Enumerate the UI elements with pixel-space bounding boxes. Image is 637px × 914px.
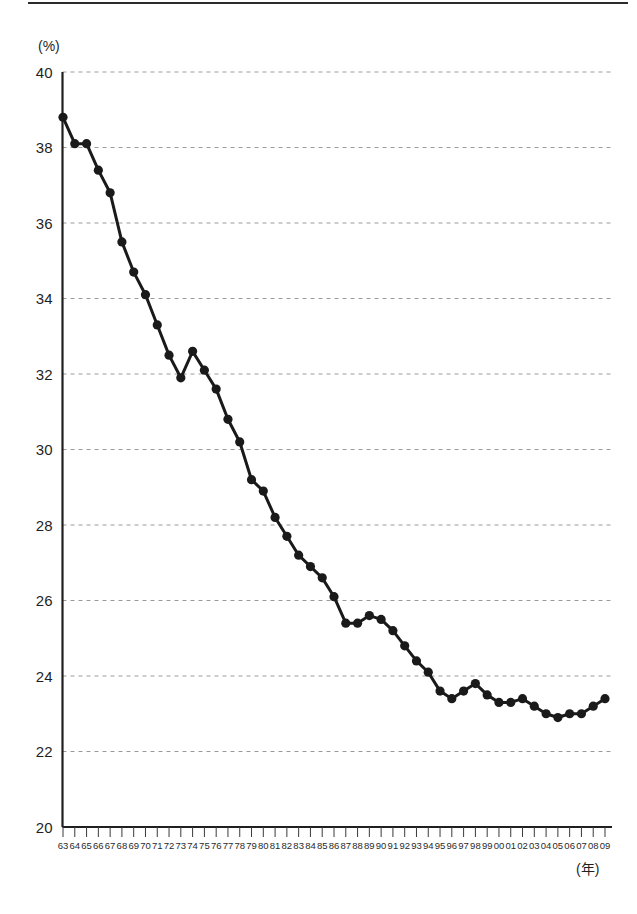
data-point-marker — [212, 385, 221, 394]
data-point-marker — [329, 592, 338, 601]
x-axis-tick-label: 98 — [470, 840, 481, 851]
x-axis-tick-label: 70 — [140, 840, 151, 851]
data-point-marker — [424, 668, 433, 677]
y-axis-tick-label: 22 — [36, 743, 53, 760]
y-axis-tick-label: 36 — [36, 215, 53, 232]
chart-plot-svg: 4038363432302826242220 63646566676869707… — [0, 0, 637, 914]
data-point-marker — [58, 113, 67, 122]
data-point-marker — [518, 694, 527, 703]
data-point-marker — [270, 513, 279, 522]
y-axis-tick-label: 30 — [36, 441, 53, 458]
x-axis-tick-label: 81 — [270, 840, 281, 851]
data-series-group — [58, 113, 609, 722]
x-axis-tick-label: 97 — [458, 840, 469, 851]
data-point-marker — [153, 320, 162, 329]
x-axis-tick-label: 88 — [352, 840, 363, 851]
x-axis-unit-label: (年) — [576, 858, 599, 878]
x-axis-tick-label: 66 — [93, 840, 104, 851]
x-axis-tick-label: 02 — [517, 840, 528, 851]
y-axis-group: 4038363432302826242220 — [36, 64, 63, 836]
x-axis-tick-label: 78 — [234, 840, 245, 851]
data-point-marker — [200, 366, 209, 375]
x-axis-tick-label: 80 — [258, 840, 269, 851]
data-point-marker — [282, 532, 291, 541]
y-axis-tick-label: 26 — [36, 592, 53, 609]
data-point-marker — [188, 347, 197, 356]
x-axis-tick-label: 89 — [364, 840, 375, 851]
x-axis-tick-label: 99 — [482, 840, 493, 851]
data-point-marker — [459, 687, 468, 696]
x-axis-tick-label: 06 — [564, 840, 575, 851]
y-axis-tick-label: 38 — [36, 139, 53, 156]
x-axis-tick-label: 82 — [282, 840, 293, 851]
x-axis-group: 6364656667686970717273747576777879808182… — [58, 827, 612, 851]
x-axis-tick-label: 05 — [553, 840, 564, 851]
x-axis-tick-label: 65 — [81, 840, 92, 851]
x-axis-tick-label: 63 — [58, 840, 69, 851]
data-point-marker — [235, 437, 244, 446]
x-axis-tick-label: 90 — [376, 840, 387, 851]
data-point-marker — [341, 619, 350, 628]
x-axis-tick-label: 94 — [423, 840, 434, 851]
x-axis-tick-label: 00 — [494, 840, 505, 851]
data-point-marker — [82, 139, 91, 148]
x-axis-tick-label: 92 — [399, 840, 410, 851]
x-axis-tick-label: 93 — [411, 840, 422, 851]
x-axis-tick-label: 74 — [187, 840, 198, 851]
data-point-marker — [565, 709, 574, 718]
chart-page: (%) 4038363432302826242220 6364656667686… — [0, 0, 637, 914]
data-point-marker — [388, 626, 397, 635]
data-point-marker — [294, 551, 303, 560]
x-axis-tick-label: 91 — [388, 840, 399, 851]
x-axis-tick-label: 85 — [317, 840, 328, 851]
data-point-marker — [106, 188, 115, 197]
data-point-marker — [412, 656, 421, 665]
y-axis-tick-label: 32 — [36, 366, 53, 383]
data-point-marker — [223, 415, 232, 424]
x-axis-tick-label: 72 — [164, 840, 175, 851]
y-axis-tick-label: 34 — [36, 290, 53, 307]
data-point-marker — [70, 139, 79, 148]
data-point-marker — [600, 694, 609, 703]
x-axis-tick-label: 79 — [246, 840, 257, 851]
data-point-marker — [247, 475, 256, 484]
data-point-marker — [141, 290, 150, 299]
x-axis-tick-label: 86 — [329, 840, 340, 851]
data-point-marker — [447, 694, 456, 703]
data-point-marker — [471, 679, 480, 688]
x-axis-tick-label: 83 — [293, 840, 304, 851]
data-point-marker — [117, 237, 126, 246]
data-point-marker — [164, 351, 173, 360]
x-axis-tick-label: 08 — [588, 840, 599, 851]
data-point-marker — [176, 373, 185, 382]
data-point-marker — [129, 267, 138, 276]
series-line — [63, 117, 605, 717]
data-point-marker — [306, 562, 315, 571]
line-chart: (%) 4038363432302826242220 6364656667686… — [0, 0, 637, 914]
y-axis-tick-label: 20 — [36, 819, 53, 836]
x-axis-tick-label: 68 — [117, 840, 128, 851]
x-axis-tick-label: 09 — [600, 840, 611, 851]
x-axis-tick-label: 71 — [152, 840, 163, 851]
data-point-marker — [577, 709, 586, 718]
x-axis-tick-label: 95 — [435, 840, 446, 851]
data-point-marker — [541, 709, 550, 718]
y-axis-tick-label: 28 — [36, 517, 53, 534]
data-point-marker — [435, 687, 444, 696]
data-point-marker — [94, 166, 103, 175]
x-axis-tick-label: 77 — [223, 840, 234, 851]
x-axis-tick-label: 75 — [199, 840, 210, 851]
data-point-marker — [553, 713, 562, 722]
x-axis-tick-label: 67 — [105, 840, 116, 851]
y-axis-tick-label: 24 — [36, 668, 53, 685]
x-axis-tick-label: 96 — [447, 840, 458, 851]
x-axis-tick-label: 84 — [305, 840, 316, 851]
data-point-marker — [494, 698, 503, 707]
data-point-marker — [506, 698, 515, 707]
data-point-marker — [483, 690, 492, 699]
data-point-marker — [318, 573, 327, 582]
x-axis-tick-label: 03 — [529, 840, 540, 851]
x-axis-tick-label: 69 — [128, 840, 139, 851]
data-point-marker — [259, 486, 268, 495]
data-point-marker — [353, 619, 362, 628]
